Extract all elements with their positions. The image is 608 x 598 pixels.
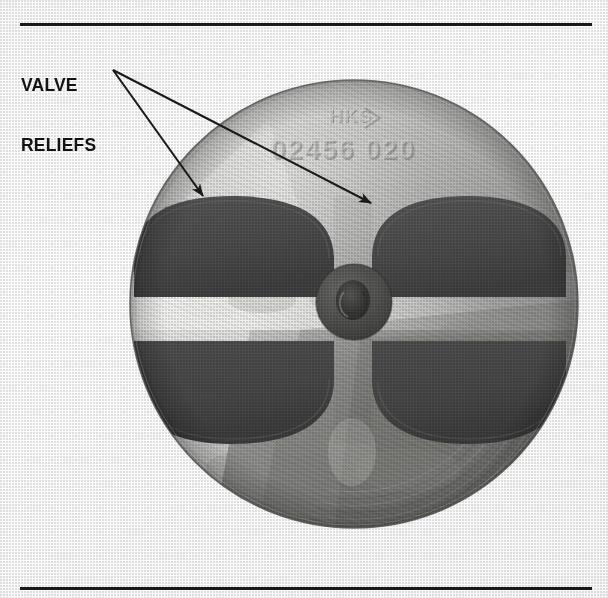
callout-label-line-1: VALVE: [21, 75, 96, 95]
rule-bottom: [20, 587, 592, 590]
callout-label: VALVE RELIEFS: [21, 34, 96, 196]
figure-container: HKS HKS 02456 020 02456 020: [0, 0, 608, 598]
leader-line-left-valve-relief: [113, 70, 203, 196]
callout-label-line-2: RELIEFS: [21, 135, 96, 155]
rule-top: [20, 23, 592, 26]
